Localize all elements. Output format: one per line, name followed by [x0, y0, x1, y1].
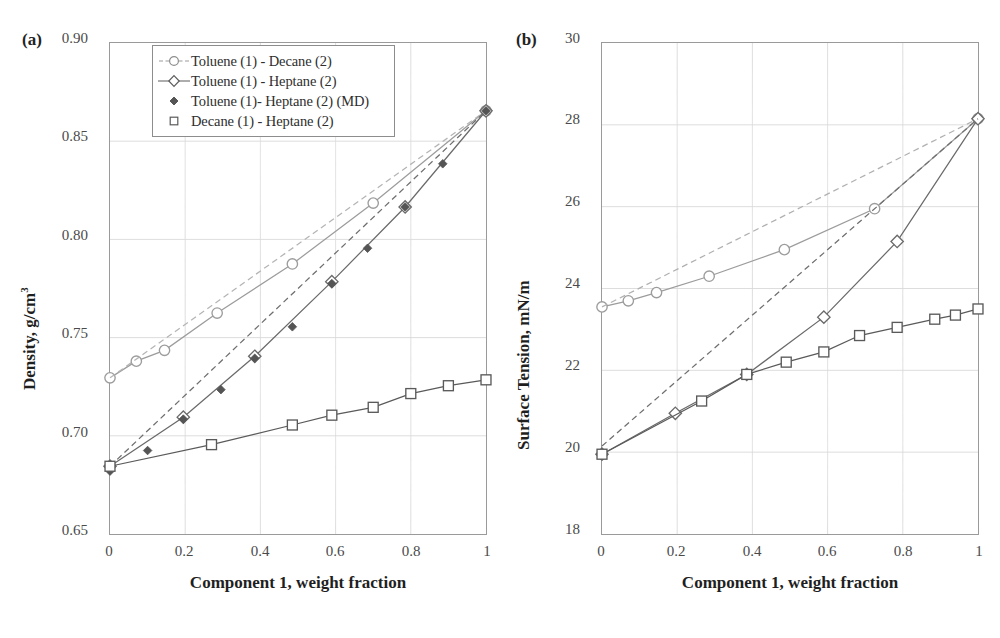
legend-label-1: Toluene (1) - Heptane (2) [191, 73, 336, 90]
panel-a-xtick-0: 0 [89, 543, 129, 560]
panel-a-yaxis-title-text: Density, g/cm [20, 293, 39, 390]
panel-b-xaxis-title: Component 1, weight fraction [620, 573, 960, 593]
panel-b-ytick-2: 26 [544, 193, 580, 210]
legend-item-2[interactable]: Toluene (1)- Heptane (2) (MD) [157, 91, 386, 111]
panel-a-ytick-5: 0.65 [44, 522, 88, 539]
legend-key-square-open-icon [157, 112, 191, 130]
panel-b-yaxis-title-text: Surface Tension, mN/m [514, 280, 533, 450]
panel-b-ytick-4: 22 [544, 357, 580, 374]
panel-a-tag: (a) [22, 30, 42, 50]
legend-key-circle-open-icon [157, 52, 191, 70]
figure-root: (a) 0.90 0.85 0.80 0.75 0.70 0.65 0 0.2 … [0, 0, 1000, 638]
panel-a-xtick-3: 0.6 [315, 543, 355, 560]
panel-b-plot-area [601, 42, 979, 535]
panel-b-xtick-3: 0.6 [807, 543, 847, 560]
legend-label-3: Decane (1) - Heptane (2) [191, 113, 334, 130]
panel-a-xaxis-title: Component 1, weight fraction [128, 573, 468, 593]
legend-key-diamond-filled-icon [157, 92, 191, 110]
legend-key-diamond-open-icon [157, 72, 191, 90]
panel-b-ytick-0: 30 [544, 30, 580, 47]
panel-b-xtick-4: 0.8 [883, 543, 923, 560]
panel-b-xtick-2: 0.4 [732, 543, 772, 560]
panel-a-ytick-0: 0.90 [44, 30, 88, 47]
panel-a-xtick-4: 0.8 [391, 543, 431, 560]
panel-a-ytick-1: 0.85 [44, 128, 88, 145]
panel-b-canvas [602, 43, 978, 534]
panel-b-tag: (b) [516, 30, 537, 50]
panel-b-xtick-1: 0.2 [656, 543, 696, 560]
legend-label-2: Toluene (1)- Heptane (2) (MD) [191, 93, 369, 110]
panel-b: (b) 30 28 26 24 22 20 18 0 0.2 0.4 0.6 0… [500, 0, 1000, 638]
panel-b-yaxis-title: Surface Tension, mN/m [514, 280, 534, 450]
panel-a-yaxis-title: Density, g/cm3 [18, 287, 40, 390]
panel-a-yaxis-title-sup: 3 [18, 287, 30, 293]
panel-b-ytick-1: 28 [544, 111, 580, 128]
panel-a: (a) 0.90 0.85 0.80 0.75 0.70 0.65 0 0.2 … [0, 0, 500, 638]
panel-a-ytick-4: 0.70 [44, 424, 88, 441]
panel-b-ytick-6: 18 [544, 521, 580, 538]
panel-b-xtick-0: 0 [581, 543, 621, 560]
panel-a-xtick-1: 0.2 [164, 543, 204, 560]
legend: Toluene (1) - Decane (2) Toluene (1) - H… [152, 45, 395, 137]
panel-a-xtick-2: 0.4 [240, 543, 280, 560]
panel-a-ytick-2: 0.80 [44, 227, 88, 244]
legend-item-3[interactable]: Decane (1) - Heptane (2) [157, 111, 386, 131]
legend-item-0[interactable]: Toluene (1) - Decane (2) [157, 51, 386, 71]
legend-label-0: Toluene (1) - Decane (2) [191, 53, 332, 70]
panel-b-ytick-3: 24 [544, 275, 580, 292]
panel-b-ytick-5: 20 [544, 439, 580, 456]
panel-b-xtick-5: 1 [959, 543, 999, 560]
panel-a-ytick-3: 0.75 [44, 325, 88, 342]
legend-item-1[interactable]: Toluene (1) - Heptane (2) [157, 71, 386, 91]
